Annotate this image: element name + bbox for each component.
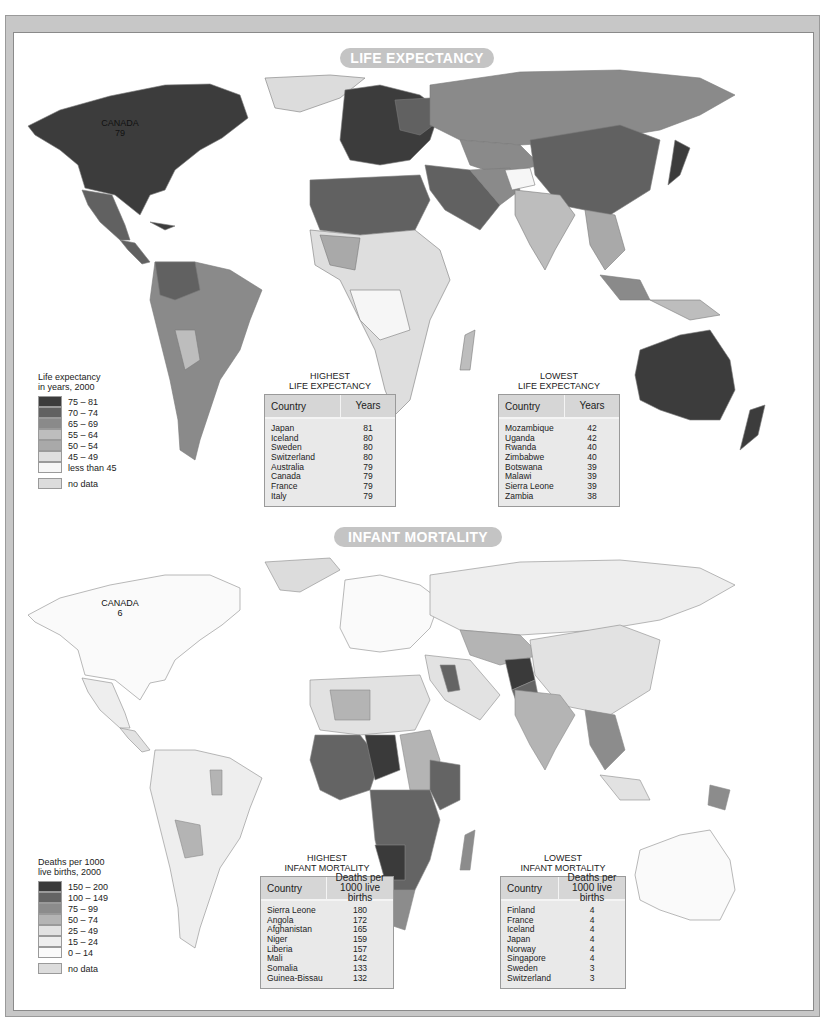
legend-class: 75 – 99	[38, 903, 108, 914]
infant-mortality-legend: Deaths per 1000 live births, 2000 150 – …	[38, 857, 108, 974]
legend-swatch	[38, 947, 62, 958]
legend-class: 50 – 74	[38, 914, 108, 925]
infant-mortality-world-map	[0, 0, 829, 1024]
legend-class: 0 – 14	[38, 947, 108, 958]
legend-swatch	[38, 892, 62, 903]
legend-class: 15 – 24	[38, 936, 108, 947]
table-header: Country Deaths per 1000 live births	[261, 877, 393, 901]
infant-mortality-title: INFANT MORTALITY	[334, 527, 502, 547]
legend-swatch	[38, 936, 62, 947]
legend-swatch	[38, 925, 62, 936]
legend-swatch	[38, 881, 62, 892]
table-row: Switzerland3	[501, 974, 625, 984]
table-caption: HIGHEST INFANT MORTALITY	[260, 853, 394, 873]
canada-value: 6	[100, 608, 140, 618]
south-america-im	[150, 750, 262, 948]
table-caption: LOWEST INFANT MORTALITY	[500, 853, 626, 873]
highest-infant-mortality-table: HIGHEST INFANT MORTALITY Country Deaths …	[260, 853, 394, 989]
legend-class: 150 – 200	[38, 881, 108, 892]
legend-no-data: no data	[38, 963, 108, 974]
legend-class: 25 – 49	[38, 925, 108, 936]
canada-name: CANADA	[100, 598, 140, 608]
table-row: Guinea-Bissau132	[261, 974, 393, 984]
legend-swatch	[38, 963, 62, 974]
lowest-infant-mortality-table: LOWEST INFANT MORTALITY Country Deaths p…	[500, 853, 626, 989]
legend-swatch	[38, 914, 62, 925]
north-america-im	[28, 575, 240, 700]
legend-swatch	[38, 903, 62, 914]
legend-class: 100 – 149	[38, 892, 108, 903]
table-header: Country Deaths per 1000 live births	[501, 877, 625, 901]
canada-infant-mortality-label: CANADA 6	[100, 598, 140, 618]
legend-title: Deaths per 1000 live births, 2000	[38, 857, 108, 877]
